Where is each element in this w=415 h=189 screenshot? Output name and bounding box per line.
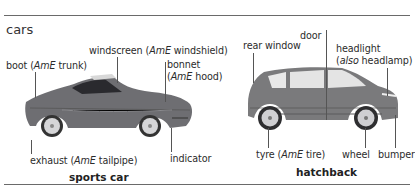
- section-title: cars: [6, 22, 33, 37]
- leader-exhaust: [31, 140, 32, 154]
- label-headlight: headlight (also headlamp): [336, 43, 412, 66]
- label-door: door: [300, 30, 321, 42]
- leader-door: [326, 30, 327, 120]
- caption-hatchback: hatchback: [296, 166, 357, 178]
- label-bonnet: bonnet (AmE hood): [167, 59, 222, 82]
- label-bumper: bumper: [378, 149, 415, 161]
- leader-boot: [35, 72, 36, 98]
- leader-indicator: [171, 128, 172, 152]
- leader-windscreen: [117, 57, 118, 83]
- leader-headlight: [387, 68, 388, 96]
- leader-bonnet: [165, 62, 166, 102]
- label-boot: boot (AmE trunk): [6, 60, 87, 72]
- leader-wheel: [365, 128, 366, 148]
- leader-bumper: [395, 115, 396, 148]
- label-exhaust: exhaust (AmE tailpipe): [30, 155, 137, 167]
- caption-sports-car: sports car: [69, 171, 129, 183]
- label-tyre: tyre (AmE tire): [256, 149, 325, 161]
- label-indicator: indicator: [170, 153, 211, 165]
- bottom-rule: [4, 184, 410, 185]
- label-windscreen: windscreen (AmE windshield): [89, 45, 228, 57]
- hatchback-image: [232, 60, 412, 140]
- leader-tyre: [268, 128, 269, 148]
- top-rule: [4, 15, 410, 16]
- label-wheel: wheel: [342, 149, 370, 161]
- leader-rear-window: [253, 53, 254, 83]
- label-rear-window: rear window: [243, 40, 301, 52]
